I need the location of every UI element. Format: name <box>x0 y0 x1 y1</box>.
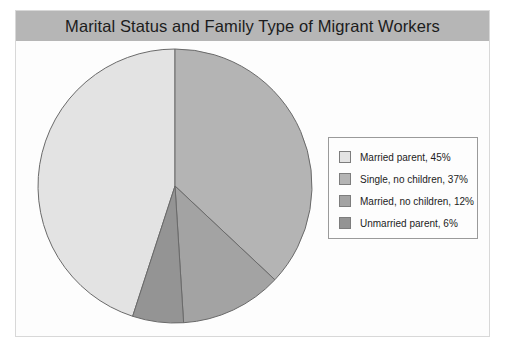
legend-item-unmarried-parent[interactable]: Unmarried parent, 6% <box>339 212 477 234</box>
plot-area: Married parent, 45% Single, no children,… <box>16 41 489 336</box>
legend-item-single-no-children[interactable]: Single, no children, 37% <box>339 168 477 190</box>
chart-title-bar: Marital Status and Family Type of Migran… <box>16 11 489 41</box>
pie-chart <box>30 41 320 331</box>
chart-frame: Marital Status and Family Type of Migran… <box>15 10 490 337</box>
legend-item-label: Unmarried parent, 6% <box>360 218 458 229</box>
legend-item-label: Married, no children, 12% <box>360 196 474 207</box>
legend-item-label: Single, no children, 37% <box>360 174 468 185</box>
legend-swatch-icon <box>339 217 351 229</box>
legend-swatch-icon <box>339 151 351 163</box>
legend-item-married-no-children[interactable]: Married, no children, 12% <box>339 190 477 212</box>
legend-item-married-parent[interactable]: Married parent, 45% <box>339 146 477 168</box>
legend-swatch-icon <box>339 173 351 185</box>
page-title: Marital Status and Family Type of Migran… <box>65 17 440 36</box>
legend-swatch-icon <box>339 195 351 207</box>
chart-legend: Married parent, 45% Single, no children,… <box>328 137 478 239</box>
legend-item-label: Married parent, 45% <box>360 152 451 163</box>
pie-slice-group <box>38 49 312 323</box>
